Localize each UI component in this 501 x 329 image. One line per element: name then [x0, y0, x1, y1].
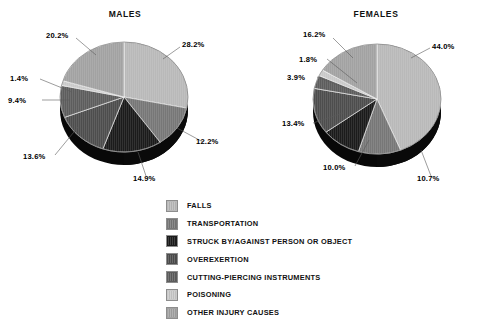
- slice-label-males-5: 1.4%: [10, 74, 28, 83]
- slice-label-females-4: 3.9%: [287, 73, 305, 82]
- slice-label-males-4: 9.4%: [8, 96, 26, 105]
- legend: FALLS TRANSPORTATION STRUCK BY/AGAINST P…: [166, 197, 466, 322]
- slice-label-females-3: 13.4%: [282, 119, 305, 128]
- legend-item: OVEREXERTION: [166, 250, 466, 268]
- legend-label: STRUCK BY/AGAINST PERSON OR OBJECT: [187, 237, 352, 246]
- pie-chart-males: MALES 28.2% 12.2% 14.9% 13.6% 9.4% 1.4% …: [0, 0, 250, 196]
- legend-label: FALLS: [187, 201, 212, 210]
- legend-item: STRUCK BY/AGAINST PERSON OR OBJECT: [166, 233, 466, 251]
- slice-label-females-2: 10.0%: [323, 163, 346, 172]
- legend-label: OVEREXERTION: [187, 255, 249, 264]
- pie-area-females: [251, 0, 501, 196]
- legend-swatch-struck-by-icon: [166, 235, 178, 247]
- slice-label-females-6: 16.2%: [303, 30, 326, 39]
- slice-label-males-6: 20.2%: [46, 31, 69, 40]
- slice-label-males-0: 28.2%: [182, 40, 205, 49]
- slice-label-females-1: 10.7%: [417, 174, 440, 183]
- legend-swatch-overexertion-icon: [166, 253, 178, 265]
- legend-label: OTHER INJURY CAUSES: [187, 308, 279, 317]
- pie-chart-females: FEMALES 44.0% 10.7% 10.0% 13.4% 3.9% 1.8…: [251, 0, 501, 196]
- legend-item: CUTTING-PIERCING INSTRUMENTS: [166, 268, 466, 286]
- legend-item: POISONING: [166, 286, 466, 304]
- legend-label: TRANSPORTATION: [187, 219, 258, 228]
- slice-label-males-2: 14.9%: [133, 174, 156, 183]
- legend-swatch-poisoning-icon: [166, 289, 178, 301]
- pie-svg-females: [251, 0, 501, 196]
- slice-label-males-1: 12.2%: [196, 137, 219, 146]
- legend-item: TRANSPORTATION: [166, 215, 466, 233]
- chart-figure: MALES 28.2% 12.2% 14.9% 13.6% 9.4% 1.4% …: [0, 0, 501, 329]
- legend-swatch-transportation-icon: [166, 218, 178, 230]
- slice-label-females-0: 44.0%: [432, 42, 455, 51]
- pie-area-males: [0, 0, 250, 196]
- legend-label: POISONING: [187, 290, 231, 299]
- pie-svg-males: [0, 0, 250, 196]
- legend-item: OTHER INJURY CAUSES: [166, 304, 466, 322]
- legend-swatch-falls-icon: [166, 200, 178, 212]
- slice-label-males-3: 13.6%: [23, 152, 46, 161]
- legend-item: FALLS: [166, 197, 466, 215]
- legend-swatch-other-icon: [166, 307, 178, 319]
- slice-label-females-5: 1.8%: [299, 55, 317, 64]
- legend-swatch-cutting-piercing-icon: [166, 271, 178, 283]
- legend-label: CUTTING-PIERCING INSTRUMENTS: [187, 273, 320, 282]
